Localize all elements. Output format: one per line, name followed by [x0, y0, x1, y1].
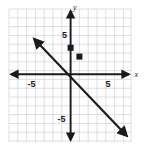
x-tick-label-positive-five: 5	[106, 79, 111, 89]
y-tick-label-positive-five: 5	[62, 30, 67, 40]
y-axis-label: y	[72, 3, 77, 12]
y-tick-label-negative-five: -5	[58, 114, 66, 124]
x-axis-label: x	[134, 70, 139, 79]
point-marker-1-2	[76, 54, 82, 60]
x-tick-label-negative-five: -5	[28, 79, 36, 89]
coordinate-plane-figure: -5 5 5 -5 x y	[0, 0, 145, 149]
point-marker-0-3	[68, 45, 74, 51]
